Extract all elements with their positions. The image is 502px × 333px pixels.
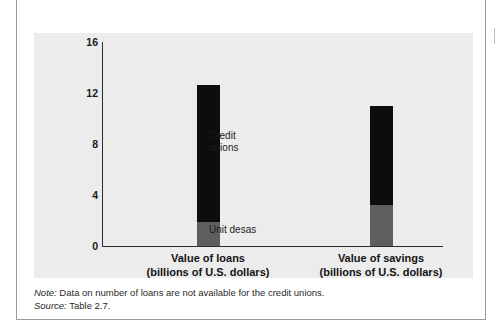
source-label: Source:: [34, 300, 67, 311]
bar-value-of-savings: [370, 106, 393, 246]
y-axis-tick-0: 0: [40, 241, 98, 252]
bar-value-of-loans: [197, 85, 220, 246]
bar-segment-unit-desas: [370, 205, 393, 246]
y-axis-tick-4: 4: [40, 190, 98, 201]
bar-segment-credit-unions: [370, 106, 393, 205]
category-label-line-2: (billions of U.S. dollars): [279, 265, 483, 279]
clipped-figure-title: [112, 0, 412, 3]
series-label-credit-unions: Credit unions: [209, 130, 238, 154]
y-axis-tick-8: 8: [40, 139, 98, 150]
category-label-line-1: Value of loans: [171, 252, 245, 264]
source-line: Source: Table 2.7.: [34, 299, 464, 312]
figure-frame: 1612840 Credit unions Unit desas Value o…: [16, 0, 486, 320]
x-axis-category-label-savings: Value of savings(billions of U.S. dollar…: [279, 251, 483, 279]
y-axis-tick-12: 12: [40, 88, 98, 99]
note-text: Data on number of loans are not availabl…: [57, 287, 325, 298]
series-label-unit-desas: Unit desas: [209, 224, 256, 236]
right-edge-rule: [494, 28, 495, 44]
source-text: Table 2.7.: [67, 300, 111, 311]
x-axis-line: [102, 246, 443, 247]
plot-area: 1612840 Credit unions Unit desas Value o…: [34, 33, 473, 278]
note-line: Note: Data on number of loans are not av…: [34, 286, 464, 299]
y-axis-tick-16: 16: [40, 37, 98, 48]
note-label: Note:: [34, 287, 57, 298]
category-label-line-1: Value of savings: [338, 252, 424, 264]
y-axis-line: [102, 42, 103, 246]
figure-footnotes: Note: Data on number of loans are not av…: [34, 286, 464, 312]
